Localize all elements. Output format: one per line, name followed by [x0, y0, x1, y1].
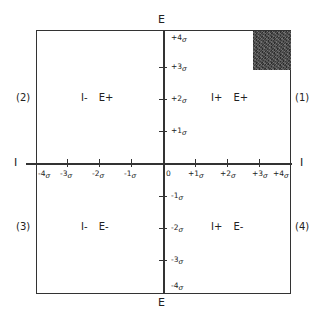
- horizontal-tick-label: +2σ: [220, 170, 236, 178]
- tick-mark: [227, 159, 228, 167]
- quadrant-1-number: (1): [295, 93, 309, 103]
- quadrant-3-number: (3): [16, 222, 30, 232]
- shaded-region: [253, 31, 291, 70]
- vertical-tick-label: +3σ: [171, 63, 187, 71]
- horizontal-tick-label: +3σ: [252, 170, 268, 178]
- horizontal-axis-i: [26, 163, 292, 165]
- vertical-axis-title-top: E: [158, 14, 165, 25]
- origin-label: 0: [166, 170, 171, 178]
- quadrant-2-label: I- E+: [81, 93, 113, 103]
- tick-mark: [259, 159, 260, 167]
- tick-mark: [67, 159, 68, 167]
- vertical-tick-label: -2σ: [171, 224, 183, 232]
- quadrant-4-label: I+ E-: [211, 222, 243, 232]
- vertical-axis-e: [163, 30, 165, 294]
- horizontal-tick-label: +4σ: [273, 170, 289, 178]
- tick-mark: [131, 159, 132, 167]
- tick-mark: [159, 260, 167, 261]
- horizontal-axis-title-left: I: [14, 157, 17, 168]
- horizontal-tick-label: -2σ: [92, 170, 104, 178]
- quadrant-2-number: (2): [16, 93, 30, 103]
- tick-mark: [99, 159, 100, 167]
- horizontal-tick-label: -1σ: [124, 170, 136, 178]
- tick-mark: [159, 131, 167, 132]
- vertical-tick-label: -3σ: [171, 256, 183, 264]
- quadrant-4-number: (4): [295, 222, 309, 232]
- tick-mark: [195, 159, 196, 167]
- tick-mark: [159, 67, 167, 68]
- tick-mark: [159, 99, 167, 100]
- vertical-tick-label: +2σ: [171, 95, 187, 103]
- horizontal-tick-label: -3σ: [60, 170, 72, 178]
- tick-mark: [159, 228, 167, 229]
- vertical-axis-title-bottom: E: [158, 297, 165, 308]
- vertical-tick-label: -4σ: [171, 282, 183, 290]
- horizontal-axis-title-right: I: [300, 157, 303, 168]
- vertical-tick-label: +1σ: [171, 127, 187, 135]
- horizontal-tick-label: -4σ: [38, 170, 50, 178]
- vertical-tick-label: +4σ: [171, 34, 187, 42]
- tick-mark: [159, 196, 167, 197]
- horizontal-tick-label: +1σ: [188, 170, 204, 178]
- vertical-tick-label: -1σ: [171, 192, 183, 200]
- quadrant-1-label: I+ E+: [211, 93, 248, 103]
- quadrant-3-label: I- E-: [81, 222, 109, 232]
